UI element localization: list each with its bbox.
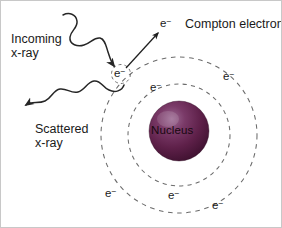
compton-electron-charge-sign: − [166, 16, 171, 26]
electron-charge-sign: − [174, 188, 179, 198]
compton-electron-label: Compton electron [185, 17, 282, 31]
electron-charge-sign: − [229, 69, 234, 79]
incoming-xray-label: Incoming x-ray [11, 32, 62, 61]
electron-label-struck: e− [114, 67, 125, 80]
scattered-xray-label: Scattered x-ray [35, 122, 89, 151]
scattered-xray-label-line1: Scattered [35, 122, 89, 136]
compton-electron-arrow [126, 33, 158, 68]
electron-label-outer-left: e− [105, 187, 116, 200]
compton-electron-symbol: e− [160, 17, 171, 30]
nucleus-label: Nucleus [151, 124, 193, 137]
compton-scattering-figure: Incoming x-ray Scattered x-ray e− Compto… [0, 0, 282, 228]
incoming-xray-wave [63, 14, 114, 66]
electron-label-inner-top: e− [150, 81, 161, 94]
scattered-xray-wave [26, 81, 124, 105]
incoming-xray-label-line1: Incoming [11, 32, 62, 46]
electron-charge-sign: − [218, 198, 223, 208]
electron-label-inner-bottom: e− [168, 189, 179, 202]
scattered-xray-label-line2: x-ray [35, 136, 89, 150]
electron-charge-sign: − [120, 66, 125, 76]
incoming-xray-label-line2: x-ray [11, 46, 62, 60]
electron-label-outer-bottom: e− [212, 199, 223, 212]
electron-label-outer-top-right: e− [223, 70, 234, 83]
electron-charge-sign: − [156, 80, 161, 90]
electron-charge-sign: − [111, 186, 116, 196]
